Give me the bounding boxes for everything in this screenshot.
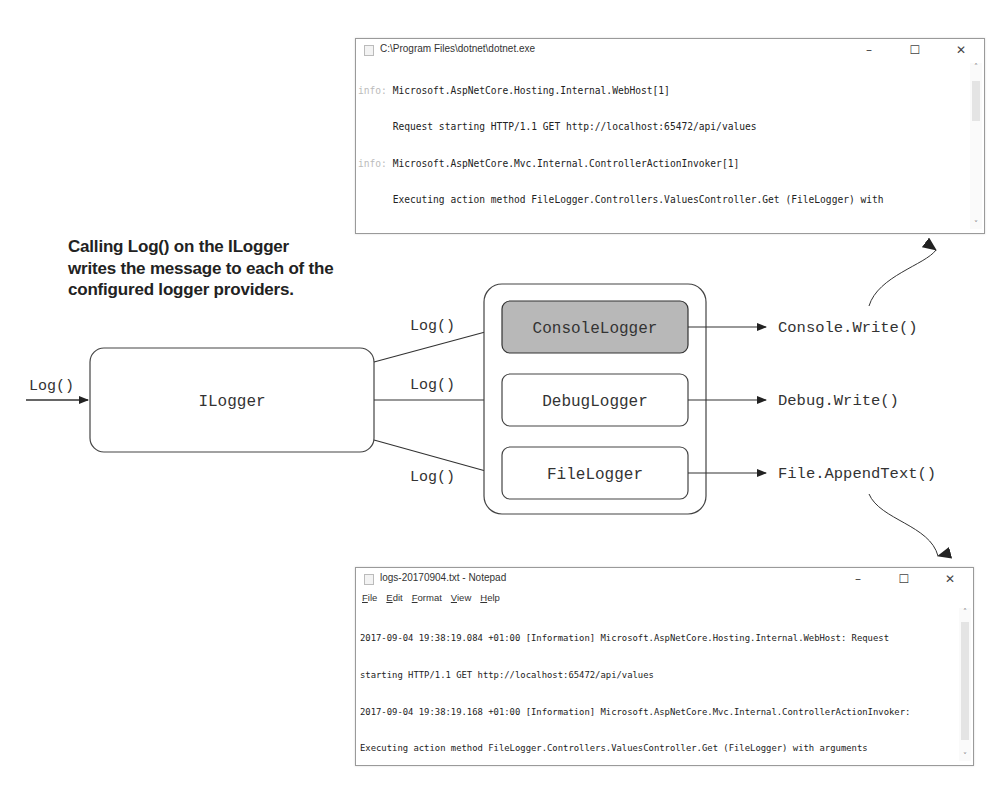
close-icon[interactable]: ✕ — [927, 568, 973, 590]
branch-log-label: Log() — [410, 469, 455, 486]
notepad-menu-bar: File Edit Format View Help — [362, 592, 500, 603]
branch-log-label: Log() — [410, 318, 455, 335]
input-log-label: Log() — [29, 378, 74, 395]
notepad-window-controls: – ☐ ✕ — [835, 568, 973, 590]
provider-debug-logger: DebugLogger — [502, 374, 688, 426]
notepad-window-title: logs-20170904.txt - Notepad — [380, 572, 506, 583]
svg-text:DebugLogger: DebugLogger — [542, 393, 648, 411]
provider-file-logger: FileLogger — [502, 447, 688, 499]
menu-file[interactable]: File — [362, 592, 377, 603]
file-append-label: File.AppendText() — [778, 465, 936, 483]
notepad-app-icon — [364, 574, 374, 585]
ilogger-box: ILogger — [90, 348, 374, 452]
debug-write-label: Debug.Write() — [778, 392, 899, 410]
input-arrow: Log() — [26, 378, 88, 400]
provider-console-logger: ConsoleLogger — [502, 301, 688, 353]
scroll-up-icon[interactable]: ˄ — [959, 608, 971, 617]
curved-arrow-to-console — [869, 250, 936, 306]
svg-text:ConsoleLogger: ConsoleLogger — [533, 320, 658, 338]
notepad-window: logs-20170904.txt - Notepad – ☐ ✕ File E… — [355, 567, 974, 766]
scroll-down-icon[interactable]: ˅ — [959, 752, 971, 761]
console-write-label: Console.Write() — [778, 319, 918, 337]
log-line: 2017-09-04 19:38:19.084 +01:00 [Informat… — [360, 632, 955, 644]
curved-arrow-to-notepad — [869, 494, 938, 556]
scroll-thumb[interactable] — [961, 622, 969, 740]
branch-log-label: Log() — [410, 377, 455, 394]
notepad-scrollbar[interactable]: ˄ ˅ — [959, 608, 971, 761]
ilogger-label: ILogger — [198, 393, 265, 411]
output-arrows: Console.Write() Debug.Write() File.Appen… — [688, 319, 936, 483]
menu-help[interactable]: Help — [480, 592, 500, 603]
log-line: starting HTTP/1.1 GET http://localhost:6… — [360, 669, 955, 681]
menu-view[interactable]: View — [451, 592, 471, 603]
log-line: 2017-09-04 19:38:19.168 +01:00 [Informat… — [360, 706, 955, 718]
notepad-title-bar[interactable]: logs-20170904.txt - Notepad – ☐ ✕ — [356, 568, 973, 590]
branch-arrows: Log() Log() Log() — [374, 318, 500, 486]
maximize-icon[interactable]: ☐ — [881, 568, 927, 590]
notepad-text-area[interactable]: 2017-09-04 19:38:19.084 +01:00 [Informat… — [360, 608, 955, 761]
minimize-icon[interactable]: – — [835, 568, 881, 590]
menu-edit[interactable]: Edit — [386, 592, 402, 603]
svg-text:FileLogger: FileLogger — [547, 466, 643, 484]
menu-format[interactable]: Format — [412, 592, 442, 603]
log-line: Executing action method FileLogger.Contr… — [360, 742, 955, 754]
